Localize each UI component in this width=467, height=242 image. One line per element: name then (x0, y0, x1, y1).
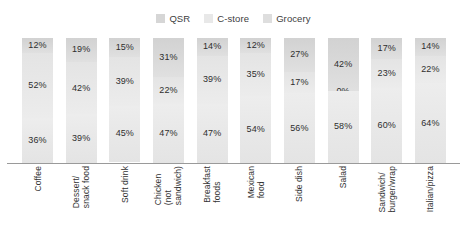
segment-grocery[interactable]: 47% (153, 104, 184, 163)
segment-qsr[interactable]: 19% (66, 38, 97, 62)
x-axis-tick-text: Sandwich/ burger/wrap (377, 166, 397, 212)
x-axis-tick-label: Chicken (not sandwich) (153, 166, 184, 240)
x-axis-tick-label: Salad (328, 166, 359, 240)
bar-column[interactable]: 14%39%47% (197, 38, 228, 163)
bar-column[interactable]: 12%35%54% (240, 38, 271, 163)
segment-value-label: 64% (421, 119, 439, 128)
segment-value-label: 14% (203, 42, 221, 51)
segment-value-label: 42% (334, 60, 352, 69)
x-axis-tick-text: Dessert/ snack food (71, 166, 91, 208)
segment-value-label: 39% (72, 134, 90, 143)
segment-value-label: 12% (28, 41, 46, 50)
bar-column[interactable]: 14%22%64% (415, 38, 446, 163)
segment-value-label: 23% (378, 69, 396, 78)
segment-value-label: 52% (28, 81, 46, 90)
x-axis-labels: CoffeeDessert/ snack foodSoft drinkChick… (22, 166, 446, 240)
segment-qsr[interactable]: 14% (197, 38, 228, 56)
x-axis-tick-label: Side dish (284, 166, 315, 240)
x-axis-tick-label: Coffee (22, 166, 53, 240)
x-axis-tick-text: Italian/pizza (425, 166, 435, 212)
bar-column[interactable]: 19%42%39% (66, 38, 97, 163)
segment-qsr[interactable]: 15% (109, 38, 140, 57)
legend-label-qsr: QSR (169, 13, 190, 24)
segment-value-label: 17% (290, 78, 308, 87)
segment-grocery[interactable]: 36% (22, 118, 53, 163)
legend-item-qsr[interactable]: QSR (156, 13, 190, 24)
segment-value-label: 14% (421, 42, 439, 51)
segment-cstore[interactable]: 52% (22, 53, 53, 118)
x-axis-tick-label: Sandwich/ burger/wrap (371, 166, 402, 240)
bar-column[interactable]: 17%23%60% (371, 38, 402, 163)
segment-grocery[interactable]: 64% (415, 83, 446, 163)
segment-value-label: 12% (247, 41, 265, 50)
segment-grocery[interactable]: 56% (284, 93, 315, 163)
legend-swatch-grocery (263, 14, 272, 23)
segment-cstore[interactable]: 22% (153, 77, 184, 105)
legend-item-cstore[interactable]: C-store (204, 13, 249, 24)
segment-grocery[interactable]: 60% (371, 88, 402, 163)
x-axis-tick-text: Salad (338, 166, 348, 188)
chart-legend: QSR C-store Grocery (0, 13, 467, 24)
segment-value-label: 39% (116, 77, 134, 86)
x-axis-tick-text: Side dish (294, 166, 304, 202)
x-axis-line (7, 163, 460, 164)
segment-grocery[interactable]: 58% (328, 91, 359, 164)
legend-label-cstore: C-store (217, 13, 249, 24)
segment-value-label: 19% (72, 45, 90, 54)
stacked-bar-chart: QSR C-store Grocery 12%52%36%19%42%39%15… (0, 0, 467, 242)
segment-value-label: 35% (247, 70, 265, 79)
segment-value-label: 31% (159, 53, 177, 62)
legend-item-grocery[interactable]: Grocery (263, 13, 310, 24)
x-axis-tick-text: Soft drink (120, 166, 130, 203)
x-axis-tick-text: Coffee (33, 166, 43, 192)
x-axis-tick-label: Mexican food (240, 166, 271, 240)
plot-area: 12%52%36%19%42%39%15%39%45%31%22%47%14%3… (22, 38, 446, 163)
segment-value-label: 22% (421, 65, 439, 74)
segment-value-label: 47% (203, 129, 221, 138)
segment-cstore[interactable]: 35% (240, 53, 271, 96)
x-axis-tick-label: Italian/pizza (415, 166, 446, 240)
segment-value-label: 45% (116, 129, 134, 138)
segment-grocery[interactable]: 47% (197, 104, 228, 163)
segment-qsr[interactable]: 12% (22, 38, 53, 53)
bar-column[interactable]: 31%22%47% (153, 38, 184, 163)
segment-qsr[interactable]: 27% (284, 38, 315, 72)
segment-value-label: 47% (159, 129, 177, 138)
x-axis-tick-label: Breakfast foods (197, 166, 228, 240)
segment-value-label: 56% (290, 124, 308, 133)
segment-grocery[interactable]: 39% (66, 114, 97, 163)
segment-value-label: 27% (290, 50, 308, 59)
segment-qsr[interactable]: 31% (153, 38, 184, 77)
legend-label-grocery: Grocery (276, 13, 310, 24)
segment-value-label: 60% (378, 121, 396, 130)
segment-qsr[interactable]: 42% (328, 38, 359, 91)
segment-value-label: 15% (116, 43, 134, 52)
segment-value-label: 36% (28, 136, 46, 145)
x-axis-tick-text: Mexican food (246, 166, 266, 198)
segment-cstore[interactable]: 42% (66, 62, 97, 115)
segment-grocery[interactable]: 45% (109, 106, 140, 162)
bar-column[interactable]: 42%0%58% (328, 38, 359, 163)
legend-swatch-qsr (156, 14, 165, 23)
bar-column[interactable]: 12%52%36% (22, 38, 53, 163)
segment-value-label: 54% (247, 125, 265, 134)
legend-swatch-cstore (204, 14, 213, 23)
segment-cstore[interactable]: 22% (415, 56, 446, 84)
segment-grocery[interactable]: 54% (240, 96, 271, 163)
segment-qsr[interactable]: 14% (415, 38, 446, 56)
segment-cstore[interactable]: 17% (284, 72, 315, 93)
segment-value-label: 39% (203, 75, 221, 84)
bar-column[interactable]: 15%39%45% (109, 38, 140, 163)
x-axis-tick-label: Dessert/ snack food (66, 166, 97, 240)
x-axis-tick-text: Chicken (not sandwich) (153, 166, 183, 205)
segment-cstore[interactable]: 39% (197, 56, 228, 105)
segment-cstore[interactable]: 23% (371, 59, 402, 88)
segment-qsr[interactable]: 17% (371, 38, 402, 59)
segment-value-label: 17% (378, 44, 396, 53)
segment-qsr[interactable]: 12% (240, 38, 271, 53)
x-axis-tick-text: Breakfast foods (202, 166, 222, 203)
segment-cstore[interactable]: 39% (109, 57, 140, 106)
segment-value-label: 22% (159, 86, 177, 95)
segment-value-label: 42% (72, 84, 90, 93)
bar-column[interactable]: 27%17%56% (284, 38, 315, 163)
